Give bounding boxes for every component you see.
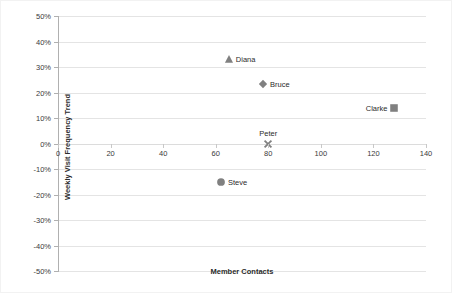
x-axis-tick-label: 40 (159, 149, 167, 158)
y-axis-tick-mark (54, 195, 58, 196)
y-axis-tick-mark (54, 271, 58, 272)
y-axis-tick-mark (54, 67, 58, 68)
x-axis-tick-mark (426, 144, 427, 148)
y-axis-tick-mark (54, 118, 58, 119)
plot-area: DianaBruceClarkePeterSteve (58, 16, 426, 271)
y-axis-tick-label: -40% (33, 241, 51, 250)
gridline-horizontal (58, 16, 426, 17)
y-axis-tick-label: 0% (40, 139, 51, 148)
x-axis-title: Member Contacts (58, 267, 426, 276)
gridline-horizontal (58, 220, 426, 221)
x-axis-tick-label: 0 (56, 149, 60, 158)
scatter-chart: DianaBruceClarkePeterSteve 50%40%30%20%1… (0, 0, 452, 293)
y-axis-tick-label: 10% (36, 114, 51, 123)
y-axis-tick-mark (54, 246, 58, 247)
x-axis-tick-mark (268, 144, 269, 148)
x-axis-tick-label: 140 (420, 149, 433, 158)
data-point-label: Peter (259, 129, 277, 138)
gridline-horizontal (58, 246, 426, 247)
gridline-horizontal (58, 118, 426, 119)
x-axis-tick-mark (58, 144, 59, 148)
data-point-label: Steve (228, 178, 247, 187)
y-axis-tick-label: -20% (33, 190, 51, 199)
gridline-horizontal (58, 169, 426, 170)
x-axis-tick-label: 20 (106, 149, 114, 158)
marker-triangle-icon (224, 55, 233, 64)
x-axis-tick-label: 60 (212, 149, 220, 158)
x-axis-tick-label: 100 (315, 149, 328, 158)
gridline-horizontal (58, 195, 426, 196)
y-axis-tick-label: 30% (36, 63, 51, 72)
gridline-horizontal (58, 144, 426, 145)
gridline-horizontal (58, 93, 426, 94)
y-axis-title: Weekly Visit Frequency Trend (63, 93, 72, 199)
y-axis-tick-label: -10% (33, 165, 51, 174)
x-axis-tick-label: 120 (367, 149, 380, 158)
x-axis-tick-mark (216, 144, 217, 148)
y-axis-tick-mark (54, 220, 58, 221)
data-point-label: Bruce (270, 79, 290, 88)
y-axis-tick-mark (54, 16, 58, 17)
y-axis-tick-label: 20% (36, 88, 51, 97)
y-axis-tick-mark (54, 42, 58, 43)
y-axis-tick-label: -30% (33, 216, 51, 225)
gridline-horizontal (58, 67, 426, 68)
x-axis-tick-mark (373, 144, 374, 148)
gridline-horizontal (58, 42, 426, 43)
data-point-label: Clarke (366, 103, 388, 112)
x-axis-tick-label: 80 (264, 149, 272, 158)
x-axis-tick-mark (321, 144, 322, 148)
y-axis-tick-label: -50% (33, 267, 51, 276)
marker-square-icon (390, 103, 399, 112)
x-axis-tick-mark (163, 144, 164, 148)
y-axis-tick-label: 40% (36, 37, 51, 46)
data-point-label: Diana (236, 55, 256, 64)
marker-circle-icon (216, 178, 225, 187)
x-axis-tick-mark (111, 144, 112, 148)
y-axis-tick-label: 50% (36, 12, 51, 21)
y-axis-tick-mark (54, 93, 58, 94)
marker-diamond-icon (259, 79, 268, 88)
y-axis-tick-labels: 50%40%30%20%10%0%-10%-20%-30%-40%-50% (1, 1, 51, 293)
y-axis-tick-mark (54, 169, 58, 170)
